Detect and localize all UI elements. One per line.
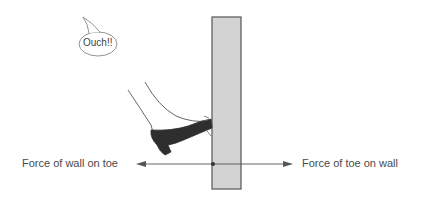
wall	[212, 17, 241, 189]
shoe	[151, 119, 212, 155]
force-of-wall-on-toe-label: Force of wall on toe	[22, 157, 118, 169]
contact-point	[211, 162, 215, 166]
arrowhead-right-icon	[283, 161, 293, 167]
speech-bubble-text: Ouch!!	[83, 37, 112, 48]
force-diagram	[0, 0, 427, 200]
arrowhead-left-icon	[136, 161, 146, 167]
force-of-toe-on-wall-label: Force of toe on wall	[302, 157, 398, 169]
